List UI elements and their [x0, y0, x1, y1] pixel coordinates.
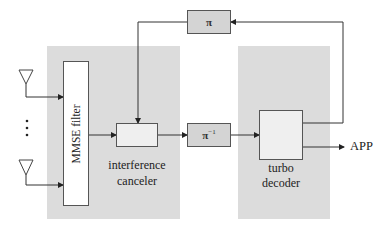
deinterleaver-superscript: −1	[208, 128, 215, 136]
turbo-decoder-block	[259, 110, 303, 160]
antenna-icon	[19, 160, 63, 185]
turbo-decoder-label-line1: turbo	[241, 161, 321, 176]
ellipsis-icon	[26, 120, 29, 137]
interleaver-label: π	[206, 16, 212, 28]
antenna-icon	[19, 70, 63, 97]
receiver-block-diagram: MMSE filter interference canceler π π−1 …	[0, 0, 388, 227]
interference-canceler-label-line2: canceler	[97, 174, 177, 189]
deinterleaver-block: π−1	[187, 123, 231, 147]
interference-canceler-block	[116, 123, 158, 147]
signal-wires	[0, 0, 388, 227]
interference-canceler-label-line1: interference	[97, 158, 177, 173]
mmse-filter-label: MMSE filter	[70, 104, 82, 163]
app-output-label: APP	[350, 139, 373, 154]
mmse-filter-label-wrap: MMSE filter	[63, 61, 89, 206]
turbo-decoder-label-line2: decoder	[241, 176, 321, 191]
interleaver-block: π	[187, 10, 231, 34]
